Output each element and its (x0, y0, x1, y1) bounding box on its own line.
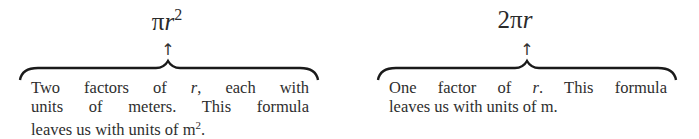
up-arrow-icon: ↑ (520, 40, 533, 59)
note-line: Two factors of r, each with (31, 78, 309, 97)
note-line: leaves us with units of m. (389, 97, 667, 116)
formula-area: πr2 (152, 6, 182, 36)
circumference-explanation: One factor of r. This formula leaves us … (389, 78, 667, 116)
area-explanation: Two factors of r, each with units of met… (31, 78, 309, 139)
note-line: One factor of r. This formula (389, 78, 667, 97)
up-arrow-icon: ↑ (161, 40, 174, 59)
formula-circumference: 2πr (498, 6, 533, 34)
note-line: units of meters. This formula (31, 97, 309, 116)
note-line: leaves us with units of m2. (31, 116, 309, 139)
